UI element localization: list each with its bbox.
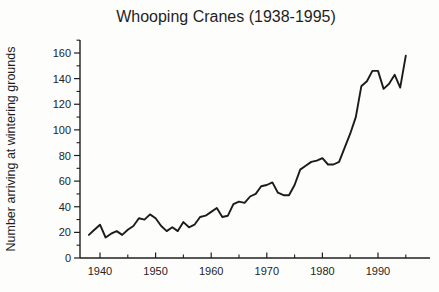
chart-canvas: Whooping Cranes (1938-1995) Number arriv… bbox=[0, 0, 439, 292]
axis-ticks bbox=[74, 40, 406, 258]
y-tick-label: 20 bbox=[59, 226, 71, 238]
y-tick-label: 100 bbox=[53, 124, 71, 136]
y-tick-label: 60 bbox=[59, 175, 71, 187]
y-tick-label: 140 bbox=[53, 73, 71, 85]
x-tick-label: 1940 bbox=[88, 265, 112, 277]
x-tick-label: 1970 bbox=[255, 265, 279, 277]
y-tick-label: 0 bbox=[65, 252, 71, 264]
x-tick-label: 1990 bbox=[366, 265, 390, 277]
axes bbox=[80, 40, 430, 258]
x-tick-label: 1960 bbox=[199, 265, 223, 277]
data-series bbox=[89, 56, 406, 238]
y-tick-label: 40 bbox=[59, 201, 71, 213]
y-tick-label: 160 bbox=[53, 47, 71, 59]
population-line bbox=[89, 56, 406, 238]
y-tick-label: 80 bbox=[59, 150, 71, 162]
x-tick-label: 1950 bbox=[143, 265, 167, 277]
y-axis-title: Number arriving at wintering grounds bbox=[4, 47, 18, 252]
x-tick-label: 1980 bbox=[310, 265, 334, 277]
chart-title: Whooping Cranes (1938-1995) bbox=[116, 8, 336, 25]
whooping-cranes-chart: Whooping Cranes (1938-1995) Number arriv… bbox=[0, 0, 439, 292]
y-tick-label: 120 bbox=[53, 98, 71, 110]
